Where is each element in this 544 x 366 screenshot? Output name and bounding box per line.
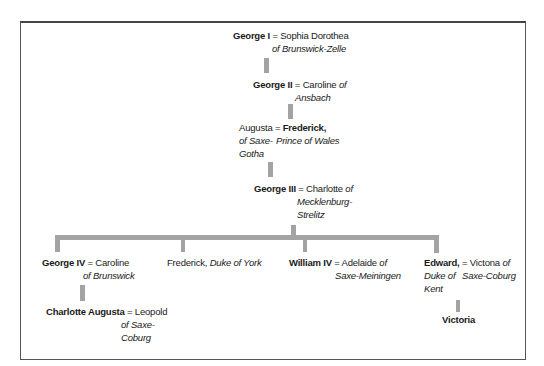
connector-vertical [181,235,185,252]
leopold-name: Leopold [135,306,167,317]
of-text: of [379,257,387,268]
marriage-sign: = [88,257,93,268]
george-i-spouse: Sophia Dorothea [280,30,348,41]
william-iv-spouse-origin: Saxe-Meiningen [335,269,401,282]
george-i-spouse-origin: of Brunswick-Zelle [272,42,346,55]
connector-vertical [264,58,269,73]
victoria-name: Victoria [442,313,475,326]
george-iv-line: George IV = Caroline [42,256,129,269]
george-iv-spouse: Caroline [95,257,129,268]
connector-vertical [80,285,85,301]
george-iv-name: George IV [42,257,85,268]
connector-horizontal [55,235,438,240]
leopold-origin-2: Coburg [121,331,151,344]
connector-vertical [288,104,293,119]
edward-title-2: Kent [424,282,443,295]
george-iv-spouse-origin: of Brunswick [83,269,134,282]
edward-name: Edward, [424,257,460,268]
frederick-pow-name: Frederick, [283,122,326,133]
frederick-pow-title: Prince of Wales [276,134,339,147]
of-text: of [339,79,347,90]
connector-vertical [434,235,439,253]
william-iv-spouse: Adelaide [342,257,377,268]
connector-vertical [456,300,460,312]
edward-spouse: Victona [470,257,500,268]
marriage-sign: = [295,79,300,90]
george-ii-name: George II [253,79,292,90]
william-iv-line: William IV = Adelaide of [289,256,387,269]
charlotte-augusta-line: Charlotte Augusta = Leopold [46,305,167,318]
william-iv-name: William IV [289,257,332,268]
marriage-sign: = [462,257,467,268]
george-iii-spouse: Charlotte [306,183,343,194]
of-text: of [345,183,353,194]
george-iii-line: George III = Charlotte of [254,182,353,195]
edward-spouse-origin: Saxe-Coburg [462,269,516,282]
charlotte-augusta-name: Charlotte Augusta [46,306,125,317]
george-ii-spouse: Caroline [303,79,337,90]
marriage-sign: = [272,30,277,41]
george-iii-spouse-origin-1: Mecklenburg- [297,195,352,208]
of-text: of [502,257,510,268]
leopold-origin-1: of Saxe- [121,318,155,331]
frederick-york-name: Frederick, [167,257,207,268]
edward-title-1: Duke of [424,269,455,282]
marriage-sign: = [127,306,132,317]
augusta-name: Augusta [239,122,272,133]
frederick-york-title: Duke of York [210,257,262,268]
marriage-sign: = [275,122,280,133]
connector-vertical [268,162,273,177]
george-i-name: George I [233,30,270,41]
george-iii-name: George III [254,183,296,194]
edward-line: Edward, = Victona of [424,256,510,269]
connector-vertical [303,235,307,252]
george-ii-spouse-origin: Ansbach [295,91,331,104]
george-iii-spouse-origin-2: Strelitz [297,208,324,221]
marriage-sign: = [334,257,339,268]
frederick-york-line: Frederick, Duke of York [167,256,262,269]
frederick-pow-line: Augusta = Frederick, [239,121,326,134]
marriage-sign: = [298,183,303,194]
augusta-origin-2: Gotha [239,147,264,160]
george-i-line: George I = Sophia Dorothea [233,29,349,42]
connector-vertical [55,235,60,252]
augusta-origin-1: of Saxe- [239,134,273,147]
george-ii-line: George II = Caroline of [253,78,346,91]
